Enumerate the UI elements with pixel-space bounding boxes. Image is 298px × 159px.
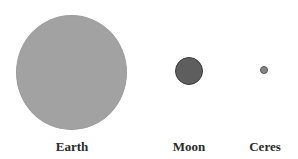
ceres-label: Ceres (249, 140, 281, 153)
moon-label: Moon (173, 140, 206, 153)
earth-circle (16, 15, 127, 130)
moon-circle (175, 57, 203, 85)
ceres-circle (260, 66, 268, 74)
earth-label: Earth (56, 140, 89, 153)
